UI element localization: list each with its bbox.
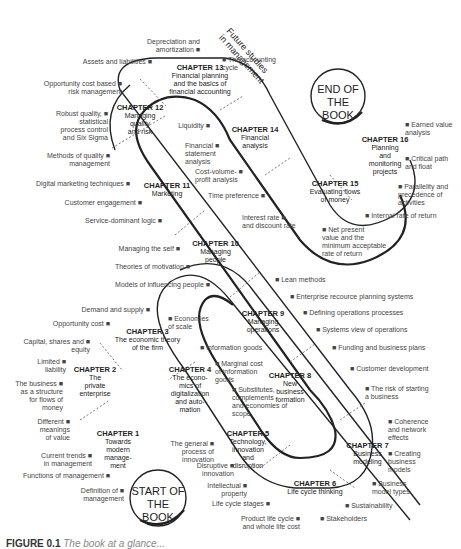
topic-label: Financial ■ statement analysis: [185, 142, 245, 166]
topic-label: Cost-volume- ■ profit analysis: [195, 168, 265, 184]
end-of-book-circle: END OF THE BOOK: [310, 83, 366, 122]
topic-label: ■ Parallelity and precedence of activiti…: [398, 183, 460, 207]
topic-label: ■ Net present value and the minimum acce…: [322, 226, 407, 258]
topic-label: Theories of motivation ■: [80, 263, 190, 271]
topic-label: ■ Creating business models: [388, 450, 448, 474]
topic-label: Intellectual ■ property: [195, 482, 247, 498]
topic-label: ■ Information goods: [200, 344, 280, 352]
topic-label: Capital, shares and ■ equity: [4, 338, 90, 354]
chapter-3: CHAPTER 3The economic theory of the firm: [105, 328, 190, 352]
topic-label: Life cycle stages ■: [200, 500, 270, 508]
chapter-15: CHAPTER 15Evaluating flows of money: [300, 180, 370, 204]
start-of-book-circle: START OF THE BOOK: [130, 485, 186, 524]
topic-label: Disruptive ■ innovation: [180, 462, 234, 478]
topic-label: Demand and supply ■: [50, 306, 150, 314]
topic-label: Different ■ meanings of value: [20, 418, 70, 442]
topic-label: ■ Stakeholders: [320, 515, 390, 523]
topic-label: ■ The accounting cycle: [222, 56, 302, 72]
topic-label: Interest rate ■ and discount rate: [242, 214, 312, 230]
chapter-11: CHAPTER 11Marketing: [142, 182, 192, 198]
figure-label: FIGURE 0.1: [6, 538, 60, 549]
topic-label: Assets and liabilities ■: [60, 58, 152, 66]
figure-caption: FIGURE 0.1 The book at a glance...: [6, 538, 165, 549]
chapter-2: CHAPTER 2The private enterprise: [70, 366, 120, 398]
topic-label: Models of influencing people ■: [60, 281, 210, 289]
topic-label: ■ Enterprise recource planning systems: [290, 293, 460, 301]
topic-label: ■ Sustainability: [345, 502, 425, 510]
topic-label: ■ Lean methods: [275, 276, 375, 284]
topic-label: Digital marketing techniques ■: [20, 180, 130, 188]
chapter-12: CHAPTER 12Managing quality and risk: [115, 104, 165, 136]
topic-label: Time preference ■: [195, 192, 265, 200]
chapter-1: CHAPTER 1Towards modern manage- ment: [88, 430, 148, 470]
topic-label: Managing the self ■: [80, 245, 180, 253]
topic-label: Product life cycle ■ and whole life cost: [220, 515, 300, 531]
topic-label: ■ Marginal cost of information goods: [215, 360, 285, 384]
chapter-16: CHAPTER 16Planning and monitoring projec…: [360, 136, 410, 176]
topic-label: ■ Economies of scale: [168, 315, 228, 331]
chapter-4: CHAPTER 4The econo- mics of digitalizati…: [160, 366, 220, 414]
topic-label: ■ Defining operations processes: [303, 309, 453, 317]
topic-label: Opportunity cost based ■ risk management: [30, 80, 122, 96]
topic-label: ■ Earned value analysis: [405, 121, 460, 137]
topic-label: Customer engagement ■: [50, 199, 142, 207]
topic-label: Methods of quality ■ management: [30, 152, 110, 168]
topic-label: Definition of ■ management: [60, 487, 124, 503]
book-roadmap-diagram: START OF THE BOOK END OF THE BOOK Future…: [0, 0, 461, 549]
topic-label: Limited ■ liability: [20, 358, 66, 374]
topic-label: ■ Substitutes, complements and economies…: [232, 386, 312, 418]
topic-label: ■ Funding and business plans: [332, 344, 457, 352]
chapter-9: CHAPTER 9Managing operations: [238, 310, 288, 334]
topic-label: Opportunity cost ■: [30, 320, 110, 328]
topic-label: ■ Critical path and float: [405, 155, 460, 171]
topic-label: Functions of management ■: [10, 472, 110, 480]
topic-label: Liquidity ■: [160, 122, 210, 130]
topic-label: ■ Internal rate of return: [365, 212, 460, 220]
topic-label: Depreciation and amortization ■: [120, 38, 200, 54]
topic-label: Robust quality, ■ statistical process co…: [40, 110, 108, 142]
chapter-7: CHAPTER 7Business modeling: [340, 442, 395, 466]
figure-text: The book at a glance...: [63, 538, 165, 549]
chapter-6: CHAPTER 6Life cycle thinking: [275, 480, 355, 496]
topic-label: ■ The risk of starting a business: [365, 385, 455, 401]
topic-label: The business ■ as a structure for flows …: [5, 380, 63, 412]
topic-label: ■ Customer development: [350, 365, 455, 373]
topic-label: ■ Systems view of operations: [316, 326, 456, 334]
chapter-10: CHAPTER 10Managing people: [188, 240, 243, 264]
topic-label: Service-dominant logic ■: [70, 217, 162, 225]
topic-label: The general ■ process of innovation: [160, 440, 214, 464]
topic-label: ■ Business model types: [372, 480, 432, 496]
topic-label: ■ Coherence and network effects: [388, 418, 458, 442]
topic-label: Current trends ■ in management: [20, 452, 92, 468]
